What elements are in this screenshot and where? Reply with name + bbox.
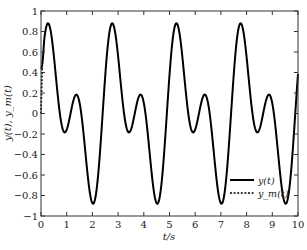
y-tick-label: 0.4 [22, 67, 38, 78]
line-chart: 012345678910 −1−0.8−0.6−0.4−0.200.20.40.… [0, 0, 307, 250]
x-tick-label: 10 [292, 219, 305, 230]
x-tick-label: 3 [115, 219, 121, 230]
x-axis-title: t/s [163, 231, 176, 242]
x-tick-label: 9 [269, 219, 275, 230]
x-tick-label: 4 [141, 219, 147, 230]
y-axis-title: y(t), y_m(t) [2, 85, 14, 142]
x-tick-label: 2 [89, 219, 95, 230]
y-tick-label: −1 [23, 211, 38, 222]
y-tick-label: 0.8 [22, 26, 38, 37]
x-tick-label: 7 [218, 219, 224, 230]
y-tick-label: 0.6 [22, 47, 38, 58]
x-tick-labels: 012345678910 [38, 219, 305, 230]
x-tick-label: 8 [243, 219, 249, 230]
y-tick-label: −0.8 [14, 190, 38, 201]
legend-label-ym: y_m(t) [257, 188, 289, 200]
y-tick-label: −0.2 [14, 129, 38, 140]
x-tick-label: 1 [64, 219, 70, 230]
y-tick-label: 1 [32, 6, 38, 17]
y-tick-label: 0 [32, 108, 38, 119]
x-tick-label: 6 [192, 219, 198, 230]
y-tick-label: −0.4 [14, 149, 38, 160]
y-tick-labels: −1−0.8−0.6−0.4−0.200.20.40.60.81 [14, 6, 38, 222]
y-tick-label: −0.6 [14, 170, 38, 181]
legend-label-y: y(t) [257, 175, 275, 186]
x-tick-label: 5 [166, 219, 172, 230]
y-tick-label: 0.2 [22, 88, 38, 99]
x-tick-label: 0 [38, 219, 44, 230]
